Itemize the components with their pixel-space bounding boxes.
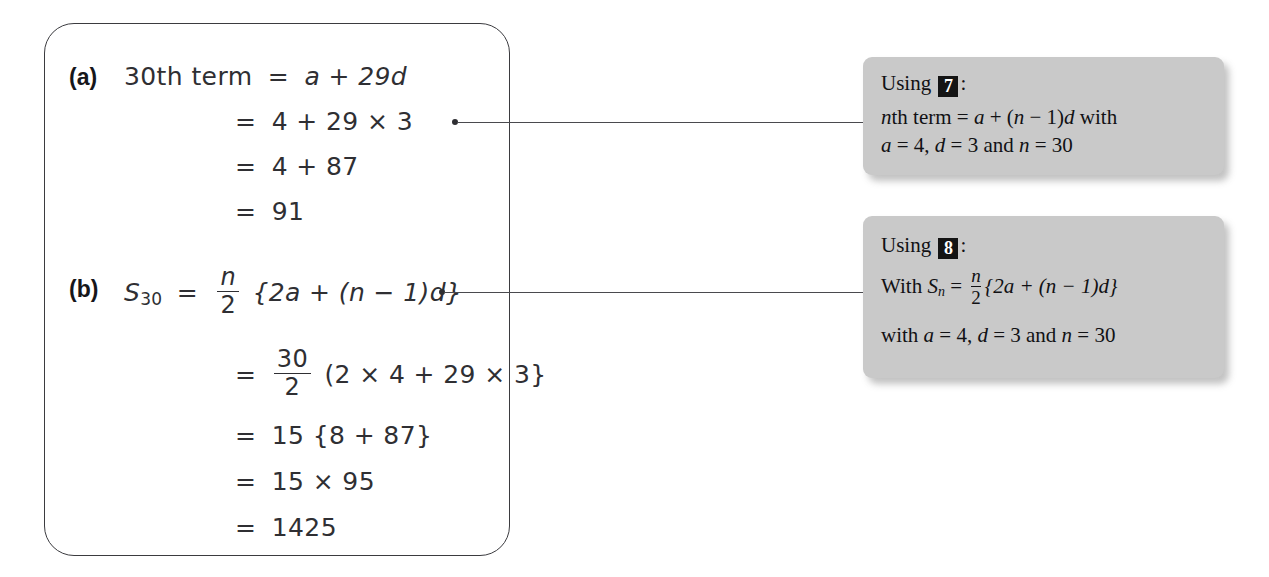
line-b2-frac-denominator: 2	[274, 375, 311, 401]
line-a3-rel: =	[235, 152, 256, 181]
callout-using-7-n2: n	[1014, 105, 1025, 129]
callout-using-7: Using 7: nth term = a + (n − 1)d with a …	[863, 57, 1224, 175]
callout-using-7-heading: Using 7:	[881, 70, 1206, 97]
line-b2-fraction: 30 2	[274, 347, 311, 401]
callout-using-7-val-n-eq: = 30	[1030, 133, 1073, 157]
solution-line-a1: 30th term = a + 29d	[124, 62, 407, 91]
connector-line-lower	[444, 292, 863, 293]
callout-using-8-frac-denominator: 2	[971, 288, 981, 308]
rule-badge-8: 8	[938, 238, 958, 259]
callout-using-7-d: d	[1064, 105, 1075, 129]
part-label-a: (a)	[69, 64, 97, 91]
callout-using-8-equals: =	[945, 274, 967, 298]
callout-using-8-s-sub: n	[938, 284, 945, 299]
part-label-b: (b)	[69, 276, 98, 303]
callout-using-8-frac-numerator: n	[971, 266, 981, 285]
callout-using-8-using-label: Using	[881, 233, 931, 257]
line-b1-frac-numerator: n	[217, 265, 239, 290]
line-b1-symbol: S	[124, 278, 140, 307]
line-b2-frac-numerator: 30	[274, 347, 311, 372]
line-b1-rel: =	[177, 278, 198, 307]
solution-line-b3: = 15 {8 + 87}	[235, 421, 432, 450]
callout-using-8: Using 8: With Sn = n2{2a + (n − 1)d} wit…	[863, 216, 1224, 378]
rule-badge-7: 7	[938, 76, 958, 97]
callout-using-7-plusparen: + (	[984, 105, 1013, 129]
callout-using-7-values: a = 4, d = 3 and n = 30	[881, 132, 1206, 159]
callout-using-7-val-n: n	[1019, 133, 1030, 157]
solution-line-a3: = 4 + 87	[235, 152, 359, 181]
callout-using-7-val-a: a	[881, 133, 892, 157]
callout-using-8-heading: Using 8:	[881, 232, 1206, 259]
callout-using-8-fraction: n2	[971, 266, 981, 308]
solution-line-b5: = 1425	[235, 513, 337, 542]
solution-line-a2: = 4 + 29 × 3	[235, 107, 413, 136]
solution-line-b2: = 30 2 (2 × 4 + 29 × 3}	[235, 349, 547, 403]
callout-using-8-val-a-eq: = 4,	[934, 323, 977, 347]
callout-using-8-val-d-eq: = 3 and	[988, 323, 1062, 347]
line-b1-subscript: 30	[140, 289, 162, 309]
line-b4-rel: =	[235, 467, 256, 496]
callout-using-7-thterm: th term =	[892, 105, 974, 129]
callout-using-7-with: with	[1075, 105, 1118, 129]
line-b1-fraction: n 2	[217, 265, 239, 319]
connector-line-upper	[457, 122, 863, 123]
callout-using-8-s: S	[927, 274, 938, 298]
callout-using-7-val-d-eq: = 3 and	[945, 133, 1019, 157]
line-a4-rhs: 91	[272, 197, 305, 226]
callout-using-7-formula: nth term = a + (n − 1)d with	[881, 104, 1206, 131]
callout-using-7-val-d: d	[935, 133, 946, 157]
callout-using-8-formula: With Sn = n2{2a + (n − 1)d}	[881, 267, 1206, 309]
callout-using-7-inner: Using 7: nth term = a + (n − 1)d with a …	[863, 57, 1224, 171]
line-b3-rhs: 15 {8 + 87}	[272, 421, 433, 450]
callout-using-8-values: with a = 4, d = 3 and n = 30	[881, 322, 1206, 349]
line-b4-rhs: 15 × 95	[272, 467, 375, 496]
line-b5-rhs: 1425	[272, 513, 337, 542]
line-a2-rhs: 4 + 29 × 3	[272, 107, 413, 136]
callout-using-8-val-n-eq: = 30	[1072, 323, 1115, 347]
callout-using-8-val-n: n	[1062, 323, 1073, 347]
callout-using-7-a: a	[974, 105, 985, 129]
solution-line-b1: S30 = n 2 {2a + (n − 1)d}	[124, 267, 462, 321]
line-b2-rel: =	[235, 360, 256, 389]
line-a4-rel: =	[235, 197, 256, 226]
callout-using-8-val-a: a	[924, 323, 935, 347]
line-b3-rel: =	[235, 421, 256, 450]
line-b5-rel: =	[235, 513, 256, 542]
callout-using-7-minus1: − 1)	[1024, 105, 1064, 129]
line-b1-rhs: {2a + (n − 1)d}	[252, 278, 462, 307]
callout-using-7-colon: :	[960, 71, 966, 95]
callout-using-7-n: n	[881, 105, 892, 129]
callout-using-8-with-label: With	[881, 274, 927, 298]
callout-using-8-brace-expr: {2a + (n − 1)d}	[985, 274, 1118, 298]
worked-solution-figure: (a) 30th term = a + 29d = 4 + 29 × 3 = 4…	[0, 0, 1269, 577]
solution-line-a4: = 91	[235, 197, 304, 226]
callout-using-8-with-prefix: with	[881, 323, 924, 347]
line-a1-lhs: 30th term	[124, 62, 252, 91]
callout-using-8-val-d: d	[977, 323, 988, 347]
line-a3-rhs: 4 + 87	[272, 152, 359, 181]
callout-using-7-val-a-eq: = 4,	[892, 133, 935, 157]
callout-using-7-using-label: Using	[881, 71, 931, 95]
line-b1-frac-denominator: 2	[217, 293, 239, 319]
line-a1-rhs: a + 29d	[304, 62, 407, 91]
line-a1-rel: =	[268, 62, 289, 91]
line-b2-rhs: (2 × 4 + 29 × 3}	[324, 360, 546, 389]
solution-line-b4: = 15 × 95	[235, 467, 375, 496]
callout-using-8-colon: :	[960, 233, 966, 257]
callout-using-8-inner: Using 8: With Sn = n2{2a + (n − 1)d} wit…	[863, 216, 1224, 362]
line-a2-rel: =	[235, 107, 256, 136]
